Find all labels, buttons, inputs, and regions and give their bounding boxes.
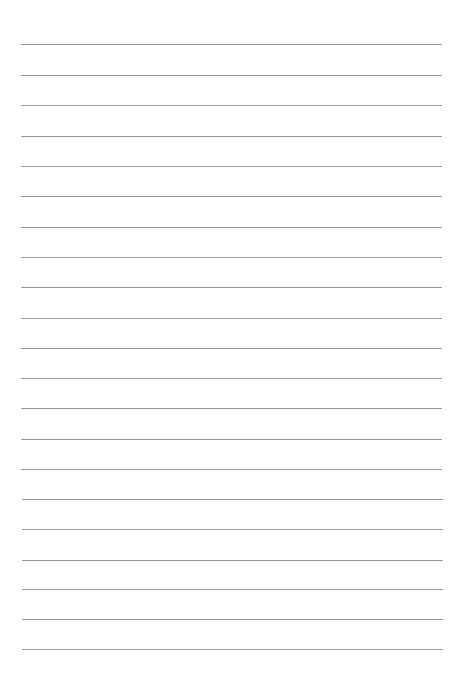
ruled-line — [21, 227, 442, 228]
ruled-line — [21, 75, 442, 76]
ruled-line — [21, 318, 442, 319]
ruled-line — [21, 257, 442, 258]
ruled-line — [21, 408, 442, 409]
ruled-line — [21, 469, 442, 470]
ruled-line — [22, 529, 443, 530]
ruled-line — [21, 196, 442, 197]
ruled-line — [22, 589, 443, 590]
ruled-line — [22, 560, 443, 561]
lined-paper-page — [0, 0, 459, 678]
ruled-line — [21, 105, 442, 106]
ruled-line — [22, 619, 443, 620]
ruled-line — [21, 287, 442, 288]
ruled-line — [21, 136, 442, 137]
ruled-line — [21, 166, 442, 167]
ruled-line — [21, 44, 442, 45]
ruled-line — [21, 348, 442, 349]
ruled-line — [21, 439, 442, 440]
ruled-line — [21, 378, 442, 379]
ruled-line — [22, 499, 443, 500]
ruled-line — [22, 649, 443, 650]
